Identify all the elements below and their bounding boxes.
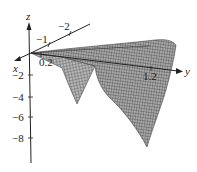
y-axis-arrow-icon: [176, 68, 183, 74]
z-tick-neg8: −8: [12, 132, 24, 144]
x-axis-arrow-icon: [14, 56, 21, 61]
surface-plot-figure: z −1 −2 x y 0.2 1.2 −2 −4 −6 −8: [0, 0, 197, 172]
z-tick-neg2: −2: [12, 69, 24, 81]
z-axis: z: [25, 10, 32, 163]
z-tick-neg4: −4: [12, 91, 24, 103]
x-tick-neg1: −1: [36, 33, 48, 45]
z-axis-label: z: [25, 10, 31, 22]
y-tick-1-2: 1.2: [143, 70, 157, 82]
x-tick-0-2: 0.2: [39, 56, 53, 68]
z-axis-arrow-icon: [27, 22, 32, 30]
z-tick-neg6: −6: [12, 111, 24, 123]
y-axis-label: y: [184, 65, 190, 77]
x-tick-neg2: −2: [58, 20, 70, 32]
